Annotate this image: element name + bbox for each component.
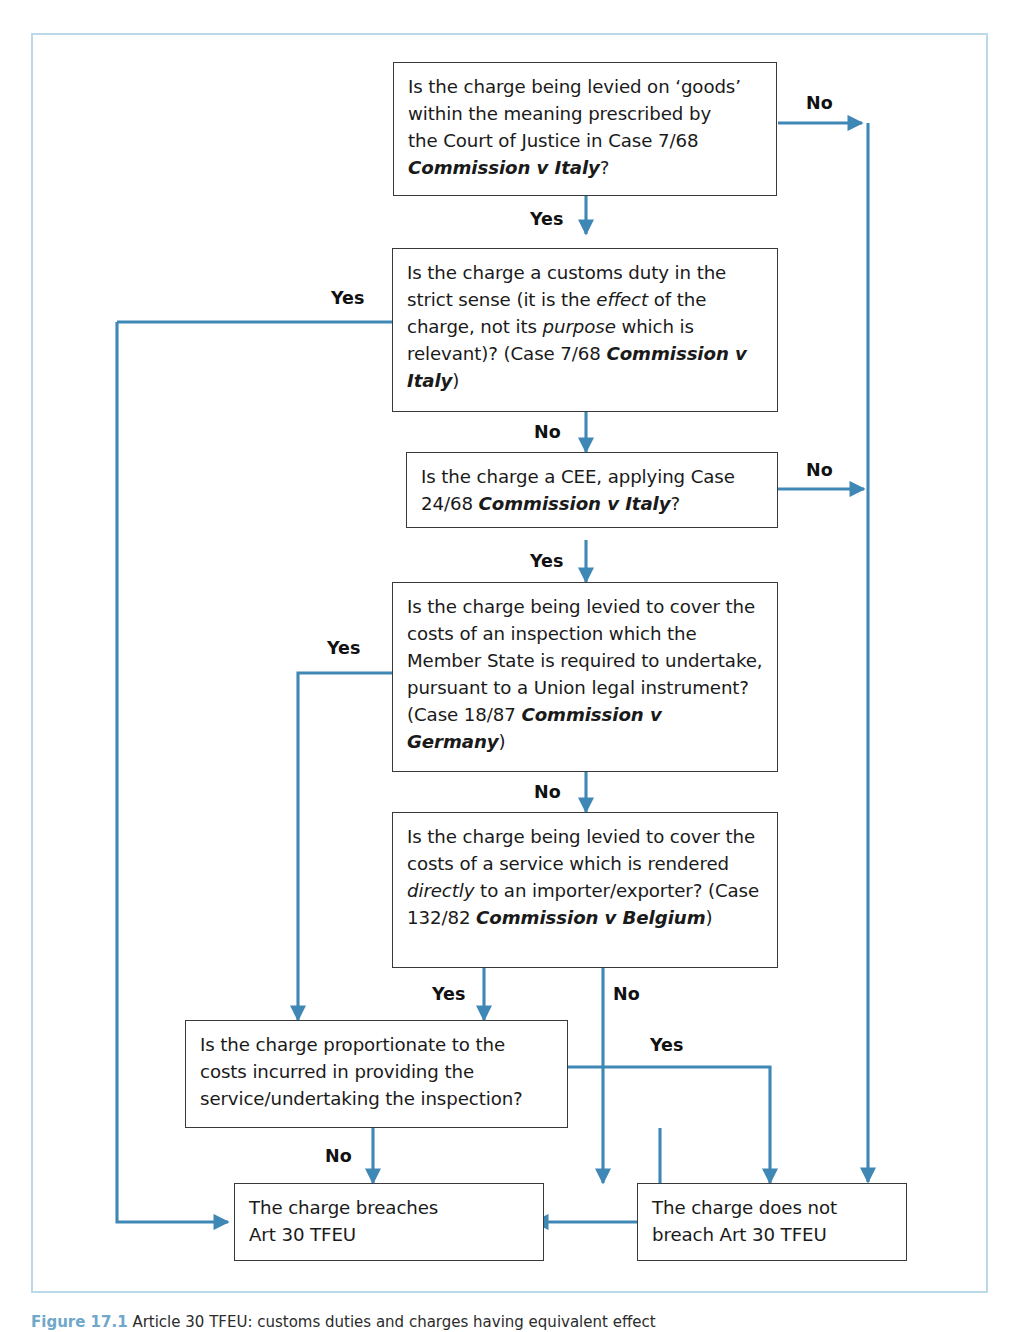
figure-caption-number: Figure 17.1 <box>31 1313 128 1331</box>
edge-label-customs-yes: Yes <box>331 288 364 308</box>
outcome-not-breaches-text: The charge does not breach Art 30 TFEU <box>652 1194 894 1248</box>
question-customs-duty-text: Is the charge a customs duty in the stri… <box>407 259 765 394</box>
edge-label-customs-no: No <box>534 422 561 442</box>
question-box-proportionate[interactable]: Is the charge proportionate to the costs… <box>185 1020 568 1128</box>
question-service-text: Is the charge being levied to cover the … <box>407 823 765 931</box>
case-citation-italic: Commission v Italy <box>408 157 600 178</box>
edge-inspection-yes <box>298 673 392 1020</box>
edge-label-proportionate-yes: Yes <box>650 1035 683 1055</box>
question-goods-text: Is the charge being levied on ‘goods’ wi… <box>408 73 764 181</box>
question-box-customs-duty[interactable]: Is the charge a customs duty in the stri… <box>392 248 778 412</box>
edge-label-goods-no: No <box>806 93 833 113</box>
question-box-cee[interactable]: Is the charge a CEE, applying Case 24/68… <box>406 452 778 528</box>
edge-label-proportionate-no: No <box>325 1146 352 1166</box>
edge-label-service-yes: Yes <box>432 984 465 1004</box>
edge-label-service-no: No <box>613 984 640 1004</box>
case-citation-italic: Commission v Belgium <box>476 907 705 928</box>
question-cee-text: Is the charge a CEE, applying Case 24/68… <box>421 463 765 517</box>
question-box-inspection[interactable]: Is the charge being levied to cover the … <box>392 582 778 772</box>
question-proportionate-text: Is the charge proportionate to the costs… <box>200 1031 555 1112</box>
case-citation-italic: Commission v Italy <box>479 493 671 514</box>
edge-label-inspection-no: No <box>534 782 561 802</box>
edge-label-cee-no: No <box>806 460 833 480</box>
edge-label-inspection-yes: Yes <box>327 638 360 658</box>
edge-proportionate-yes <box>568 1067 770 1183</box>
question-box-goods[interactable]: Is the charge being levied on ‘goods’ wi… <box>393 62 777 196</box>
edge-label-cee-yes: Yes <box>530 551 563 571</box>
question-box-service[interactable]: Is the charge being levied to cover the … <box>392 812 778 968</box>
figure-caption: Figure 17.1 Article 30 TFEU: customs dut… <box>31 1312 991 1332</box>
outcome-box-breaches[interactable]: The charge breaches Art 30 TFEU <box>234 1183 544 1261</box>
figure-caption-text: Article 30 TFEU: customs duties and char… <box>132 1313 655 1331</box>
outcome-breaches-text: The charge breaches Art 30 TFEU <box>249 1194 531 1248</box>
outcome-box-not-breaches[interactable]: The charge does not breach Art 30 TFEU <box>637 1183 907 1261</box>
edge-label-goods-yes: Yes <box>530 209 563 229</box>
question-inspection-text: Is the charge being levied to cover the … <box>407 593 765 755</box>
